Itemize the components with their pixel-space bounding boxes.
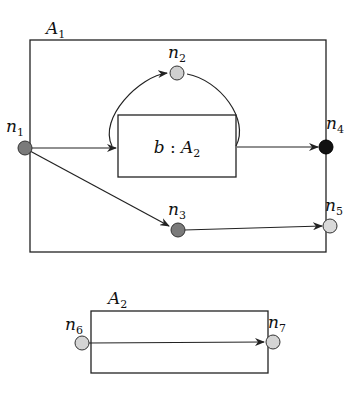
node-n6-circle <box>75 336 89 350</box>
instance-box-b: b : A2 <box>118 115 236 177</box>
node-n5-circle <box>323 219 337 233</box>
node-n4: n4 <box>319 113 344 154</box>
node-n3-circle <box>171 223 185 237</box>
node-n3: n3 <box>168 199 186 237</box>
edge-n3-to-n5 <box>184 226 322 230</box>
automaton-a2-label: A2 <box>106 288 127 311</box>
node-n2-circle <box>170 66 184 80</box>
node-n5: n5 <box>323 195 343 233</box>
node-n4-circle <box>319 140 333 154</box>
automaton-a1-label: A1 <box>44 18 65 41</box>
node-n4-label: n4 <box>326 113 344 136</box>
node-n7-label: n7 <box>268 312 286 335</box>
node-n6-label: n6 <box>65 314 83 337</box>
automaton-a2: A2 <box>89 288 268 373</box>
node-n1-label: n1 <box>6 116 24 139</box>
edge-n6-to-n7 <box>89 342 264 343</box>
node-n2-label: n2 <box>168 42 186 65</box>
node-n5-label: n5 <box>325 195 343 218</box>
automata-diagram: A1 b : A2 n1 n2 n3 n4 n5 <box>0 0 353 396</box>
node-n1: n1 <box>6 116 32 155</box>
node-n1-circle <box>18 141 32 155</box>
node-n7: n7 <box>266 312 286 349</box>
node-n3-label: n3 <box>168 199 186 222</box>
instance-box-label: b : A2 <box>154 137 201 160</box>
node-n6: n6 <box>65 314 89 350</box>
node-n2: n2 <box>168 42 186 80</box>
node-n7-circle <box>266 335 280 349</box>
